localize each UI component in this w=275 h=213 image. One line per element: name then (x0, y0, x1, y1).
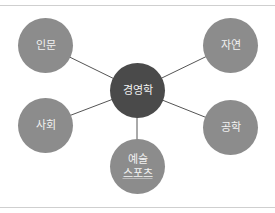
node-society: 사회 (18, 98, 73, 153)
node-center-label: 경영학 (123, 84, 153, 98)
node-engineering: 공학 (203, 100, 258, 155)
node-humanities: 인문 (18, 18, 73, 73)
node-humanities-label: 인문 (36, 39, 56, 53)
node-engineering-label: 공학 (221, 121, 241, 135)
node-arts-sports-sublabel: 스포츠 (123, 167, 153, 181)
node-center-business: 경영학 (110, 63, 165, 118)
node-arts-sports-label: 예술 (128, 153, 148, 167)
node-society-label: 사회 (36, 119, 56, 133)
node-nature: 자연 (203, 18, 258, 73)
node-arts-sports: 예술 스포츠 (110, 139, 165, 194)
node-nature-label: 자연 (221, 39, 241, 53)
